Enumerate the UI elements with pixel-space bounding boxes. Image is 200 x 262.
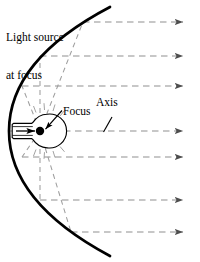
light-source-label: Light source at focus	[6, 5, 64, 108]
light-source-label-line1: Light source	[6, 31, 64, 44]
focus-dot-icon	[36, 127, 44, 135]
axis-label: Axis	[96, 96, 118, 109]
axis-leader-line	[104, 117, 113, 132]
parabolic-reflector-figure: Light source at focus Focus Axis	[0, 0, 200, 262]
light-source-label-line2: at focus	[6, 69, 64, 82]
focus-label: Focus	[63, 105, 90, 118]
